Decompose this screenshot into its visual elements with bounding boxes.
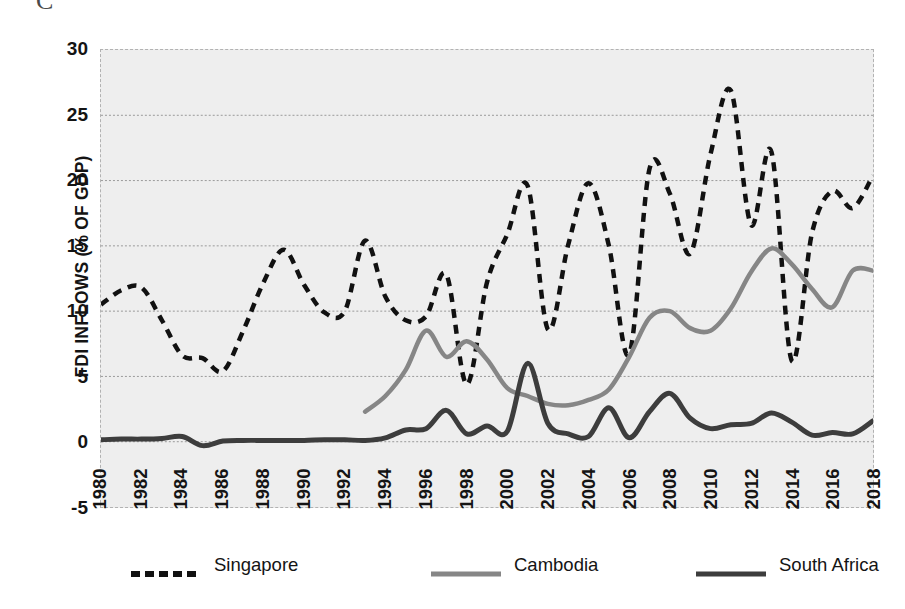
series-line-singapore — [101, 89, 873, 385]
chart-legend: SingaporeCambodiaSouth Africa — [100, 549, 880, 581]
chart-figure: C FDI INFLOWS (% OF GDP) 302520151050-5 … — [0, 0, 905, 609]
x-axis-tick-labels: 1980198219841986198819901992199419961998… — [100, 455, 874, 509]
y-tick-label: 5 — [46, 366, 88, 388]
x-tick-label: 1996 — [416, 455, 435, 509]
y-tick-label: -5 — [46, 497, 88, 519]
x-tick-label: 1990 — [294, 455, 313, 509]
x-tick-label: 1984 — [172, 455, 191, 509]
x-tick-label: 2012 — [742, 455, 761, 509]
x-tick-label: 1998 — [457, 455, 476, 509]
x-tick-label: 2008 — [661, 455, 680, 509]
x-tick-label: 2002 — [539, 455, 558, 509]
legend-entry-south-africa[interactable]: South Africa — [695, 554, 879, 576]
y-tick-label: 0 — [46, 431, 88, 453]
x-tick-label: 2016 — [824, 455, 843, 509]
x-tick-label: 2014 — [783, 455, 802, 509]
y-tick-label: 10 — [46, 300, 88, 322]
x-tick-label: 2006 — [620, 455, 639, 509]
x-tick-label: 2010 — [702, 455, 721, 509]
x-tick-label: 2004 — [579, 455, 598, 509]
series-line-south-africa — [101, 363, 873, 445]
x-tick-label: 2000 — [498, 455, 517, 509]
x-tick-label: 1992 — [335, 455, 354, 509]
legend-entry-cambodia[interactable]: Cambodia — [430, 554, 598, 576]
y-axis-tick-labels: 302520151050-5 — [46, 0, 88, 609]
x-tick-label: 1988 — [253, 455, 272, 509]
y-tick-label: 30 — [46, 38, 88, 60]
x-tick-label: 2018 — [865, 455, 884, 509]
legend-label: Singapore — [214, 554, 298, 576]
x-tick-label: 1994 — [376, 455, 395, 509]
plot-area — [100, 49, 874, 508]
legend-label: Cambodia — [514, 554, 598, 576]
y-tick-label: 15 — [46, 235, 88, 257]
y-tick-label: 25 — [46, 104, 88, 126]
x-tick-label: 1982 — [131, 455, 150, 509]
legend-label: South Africa — [779, 554, 879, 576]
plot-svg — [101, 50, 873, 507]
x-tick-label: 1986 — [213, 455, 232, 509]
x-tick-label: 1980 — [91, 455, 110, 509]
legend-entry-singapore[interactable]: Singapore — [130, 554, 298, 576]
y-tick-label: 20 — [46, 169, 88, 191]
